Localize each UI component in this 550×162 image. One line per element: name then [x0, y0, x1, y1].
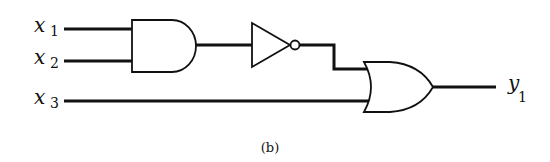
logic-circuit-diagram: x 1 x 2 x 3 y 1 (b): [0, 0, 550, 162]
svg-text:3: 3: [50, 95, 59, 111]
svg-text:1: 1: [518, 89, 527, 105]
input-label-x1: x 1: [34, 13, 59, 39]
figure-caption: (b): [261, 140, 279, 155]
wire-not-to-or: [300, 45, 373, 69]
svg-text:x: x: [34, 85, 45, 109]
svg-text:2: 2: [50, 55, 59, 71]
not-bubble: [291, 41, 300, 50]
svg-text:1: 1: [50, 23, 59, 39]
svg-text:x: x: [34, 13, 45, 37]
input-label-x2: x 2: [34, 45, 59, 71]
output-label-y1: y 1: [507, 71, 527, 105]
or-gate: [364, 62, 433, 112]
not-gate: [252, 23, 290, 67]
svg-text:x: x: [34, 45, 45, 69]
and-gate: [132, 20, 196, 72]
input-label-x3: x 3: [34, 85, 59, 111]
